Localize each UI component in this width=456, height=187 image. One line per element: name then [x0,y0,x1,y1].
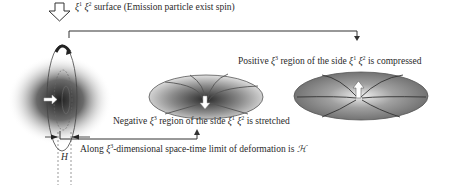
negative-region-label: Negative ξ3 region of the side ξ1 ξ2 is … [113,116,290,127]
along-deformation-label: Along ξ3-dimensional space-time limit of… [80,143,306,155]
diagram-canvas [0,0,456,187]
emission-down-arrow-icon [49,3,70,21]
surface-label: ξ1 ξ2 surface (Emission particle exist s… [75,2,235,13]
positive-region-label: Positive ξ3 region of the side ξ1 ξ2 is … [238,56,422,67]
spinning-particle [8,45,112,185]
top-connector-line [69,31,360,41]
h-label: H [61,152,68,163]
compressed-disc [294,72,428,120]
stretched-disc [149,74,263,119]
